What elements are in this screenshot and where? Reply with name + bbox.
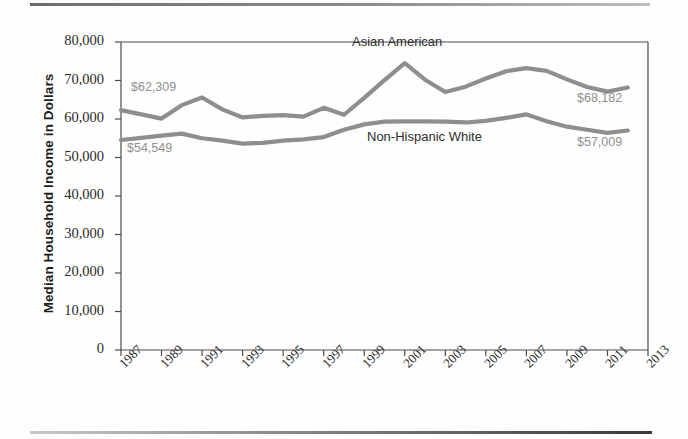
non-hispanic-white-series-label: Non-Hispanic White (367, 129, 482, 144)
axes-group (115, 42, 648, 356)
asian-american-end-value-label: $68,182 (577, 91, 622, 105)
figure-container: Median Household Income in Dollars 010,0… (0, 0, 688, 439)
line-chart: Median Household Income in Dollars 010,0… (0, 0, 688, 439)
non-hispanic-white-start-value-label: $54,549 (127, 141, 172, 155)
series-line-asian-american (121, 63, 628, 118)
asian-american-series-label: Asian American (352, 34, 442, 49)
non-hispanic-white-end-value-label: $57,009 (577, 135, 622, 149)
asian-american-start-value-label: $62,309 (131, 80, 176, 94)
plot-svg (0, 0, 688, 439)
